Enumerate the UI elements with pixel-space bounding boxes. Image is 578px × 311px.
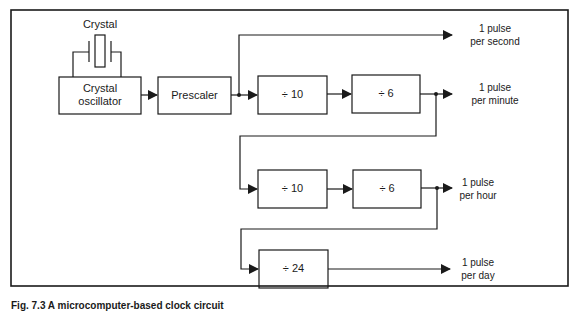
block-label-div6-b: ÷ 6: [353, 182, 421, 195]
block-label-div6-a: ÷ 6: [352, 87, 420, 100]
edge-div6a-div10b: [240, 94, 436, 189]
output-line2: per day: [438, 269, 518, 282]
oscillator-line1: Crystal: [59, 82, 141, 95]
output-line2: per second: [455, 35, 535, 48]
block-label-prescaler: Prescaler: [158, 89, 231, 102]
figure-caption: Fig. 7.3 A microcomputer-based clock cir…: [11, 300, 224, 311]
crystal-icon: [73, 35, 121, 77]
output-line1: 1 pulse: [455, 81, 535, 94]
oscillator-line2: oscillator: [59, 95, 141, 108]
block-label-div10-a: ÷ 10: [258, 88, 327, 101]
edge-div6b-div24: [241, 188, 437, 269]
block-label-div24: ÷ 24: [259, 262, 328, 275]
block-label-div10-b: ÷ 10: [258, 182, 327, 195]
output-per-second: 1 pulse per second: [455, 22, 535, 48]
output-per-hour: 1 pulse per hour: [438, 176, 518, 202]
output-line2: per hour: [438, 189, 518, 202]
output-per-day: 1 pulse per day: [438, 256, 518, 282]
output-line1: 1 pulse: [438, 256, 518, 269]
crystal-label: Crystal: [70, 18, 130, 31]
junction-dot: [237, 93, 241, 97]
output-per-minute: 1 pulse per minute: [455, 81, 535, 107]
output-line1: 1 pulse: [455, 22, 535, 35]
output-line1: 1 pulse: [438, 176, 518, 189]
junction-dot: [434, 92, 438, 96]
block-label-oscillator: Crystal oscillator: [59, 82, 141, 108]
output-line2: per minute: [455, 94, 535, 107]
